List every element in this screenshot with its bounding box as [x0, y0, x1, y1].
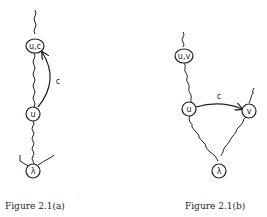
stub-right-lambda — [38, 155, 54, 165]
path-v-to-lambda — [221, 117, 246, 156]
edge-c-arrow — [38, 52, 50, 107]
caption-figure-b: Figure 2.1(b) — [185, 201, 245, 211]
diagram-canvas: c u,c u λ c u,v u v λ — [0, 0, 267, 217]
path-above-uc — [34, 10, 36, 34]
node-lambda-label: λ — [217, 167, 222, 176]
path-uv-to-u — [184, 63, 192, 103]
edge-c-arrow — [196, 104, 242, 109]
figure-b: c u,v u v λ — [175, 32, 256, 178]
path-u-to-lambda — [32, 121, 34, 166]
caption-figure-a: Figure 2.1(a) — [5, 201, 65, 211]
node-v-label: v — [247, 107, 252, 116]
node-u-label: u — [30, 110, 35, 119]
figure-a: c u,c u λ — [20, 10, 60, 178]
node-lambda-label: λ — [31, 167, 36, 176]
stub-left-lambda — [20, 155, 28, 166]
node-u-label: u — [186, 105, 191, 114]
edge-label-c: c — [56, 77, 60, 86]
edge-label-c: c — [217, 92, 221, 101]
node-uv-label: u,v — [178, 52, 191, 61]
path-u-to-lambda — [189, 116, 218, 161]
path-above-uv — [182, 32, 184, 47]
node-uc-label: u,c — [29, 42, 41, 51]
path-above-v — [249, 88, 254, 103]
path-uc-to-u — [33, 53, 35, 113]
